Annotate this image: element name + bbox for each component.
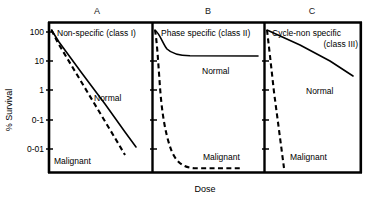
panel-a-normal-curve [52,30,137,147]
panel-b-malignant-label: Malignant [203,152,240,162]
survival-dose-chart: A B C % Survival 100 10 1 0-1 0-01 [0,0,370,207]
panel-c-normal-label: Normal [306,86,334,96]
x-axis-title: Dose [194,184,215,194]
panel-c-malignant-label: Malignant [290,152,327,162]
y-tick-label-0-1: 0-1 [32,115,45,125]
panel-b-normal-label: Normal [202,66,230,76]
panel-b-title: Phase specific (class II) [161,28,250,38]
panel-a: Non-specific (class I) Normal Malignant [52,28,137,166]
y-tick-label-100: 100 [30,27,44,37]
panel-a-malignant-label: Malignant [54,156,91,166]
figure-container: A B C % Survival 100 10 1 0-1 0-01 [0,0,370,207]
y-tick-label-10: 10 [35,56,45,66]
y-axis-title: % Survival [4,89,14,132]
panel-c-malignant-curve [267,30,284,168]
panel-letter-c: C [309,6,316,16]
panel-letter-a: A [94,6,100,16]
panel-b: Phase specific (class II) Normal Maligna… [155,28,258,168]
y-tick-label-1: 1 [39,85,44,95]
panel-c: Cycle-non specific (class III) Normal Ma… [267,28,358,168]
y-tick-label-0-01: 0-01 [27,144,44,154]
panel-a-normal-label: Normal [94,93,122,103]
panel-letter-b: B [205,6,211,16]
panel-b-malignant-curve [155,30,240,168]
panel-c-title-line2: (class III) [324,39,359,49]
panel-a-title: Non-specific (class I) [57,28,136,38]
